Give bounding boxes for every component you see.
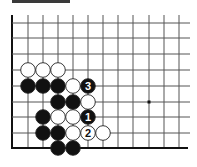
white-stone [66,126,81,141]
white-stone [36,63,51,78]
black-stone-move-3: 3 [81,79,96,94]
black-stone-move-1: 1 [81,110,96,125]
white-stone [51,63,66,78]
white-stone [21,63,36,78]
black-stone [36,110,51,125]
black-stone [51,141,66,156]
black-stone [36,126,51,141]
move-number: 2 [85,127,91,139]
black-stone [51,126,66,141]
star-points [148,101,151,104]
white-stone [66,79,81,94]
black-stone [51,79,66,94]
stones: 312 [21,63,111,156]
black-stone [21,79,36,94]
black-stone [66,95,81,110]
black-stone [36,79,51,94]
black-stone [51,95,66,110]
move-number: 3 [85,80,91,92]
white-stone [51,110,66,125]
white-stone [96,126,111,141]
white-stone-move-2: 2 [81,126,96,141]
black-stone [66,141,81,156]
star-point [148,101,151,104]
white-stone [81,95,96,110]
white-stone [66,110,81,125]
go-board: 312 [0,0,197,167]
move-number: 1 [85,111,91,123]
